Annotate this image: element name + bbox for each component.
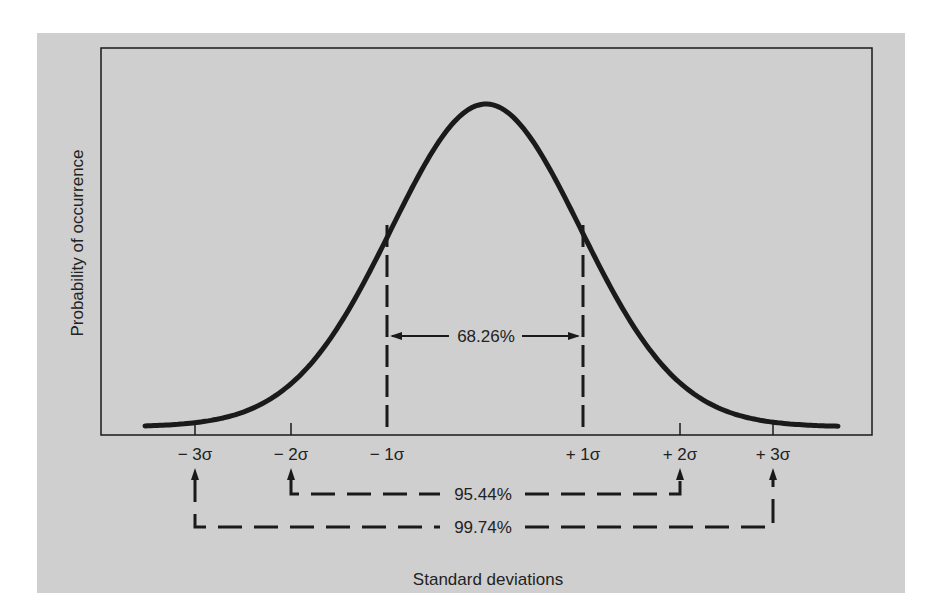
arrow-up-icon (769, 468, 777, 480)
pct99-label: 99.74% (454, 518, 512, 537)
arrow-left-icon (390, 332, 402, 340)
pct68-label: 68.26% (457, 327, 515, 346)
tick-minus-3-sigma: − 3σ (178, 445, 213, 464)
tick-plus-1-sigma: + 1σ (566, 445, 601, 464)
x-axis-ticks (195, 423, 773, 435)
tick-minus-2-sigma: − 2σ (274, 445, 309, 464)
bell-curve (145, 104, 838, 426)
normal-distribution-chart: 68.26% − 3σ − 2σ − 1σ + 1σ + 2σ + 3σ 95.… (0, 0, 938, 615)
y-axis-label: Probability of occurrence (68, 149, 88, 336)
x-axis-label: Standard deviations (413, 570, 563, 590)
pct95-label: 95.44% (454, 485, 512, 504)
arrow-up-icon (676, 468, 684, 480)
tick-plus-3-sigma: + 3σ (756, 445, 791, 464)
arrow-up-icon (191, 468, 199, 480)
arrow-up-icon (287, 468, 295, 480)
tick-minus-1-sigma: − 1σ (370, 445, 405, 464)
arrow-right-icon (568, 332, 580, 340)
tick-plus-2-sigma: + 2σ (663, 445, 698, 464)
